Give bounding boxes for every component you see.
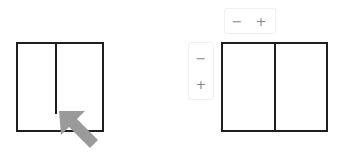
vertical-split-controls: − + [188, 42, 214, 100]
increase-height-button[interactable]: + [194, 78, 208, 91]
horizontal-split-controls: − + [224, 8, 276, 34]
increase-width-button[interactable]: + [254, 15, 268, 28]
decrease-width-button[interactable]: − [230, 15, 244, 28]
decrease-height-button[interactable]: − [194, 52, 208, 65]
full-divider[interactable] [274, 42, 276, 132]
